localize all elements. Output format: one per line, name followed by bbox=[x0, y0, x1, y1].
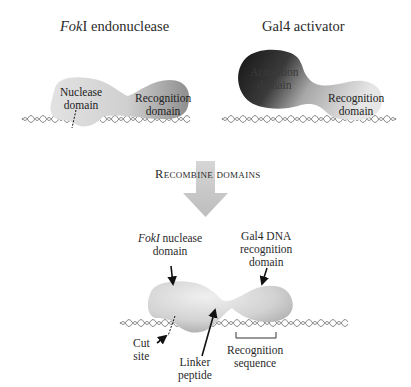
hybrid-nuclease-label-line2: domain bbox=[138, 245, 202, 258]
cut-site-label: Cut site bbox=[133, 337, 150, 363]
foki-title-italic: Fok bbox=[60, 18, 83, 34]
gal4-activation-label-line1: Activation bbox=[250, 66, 299, 79]
gal4-recognition-label-line2: domain bbox=[328, 105, 384, 118]
recognition-sequence-bracket bbox=[236, 332, 276, 338]
hybrid-nuclease-label-italic: FokI bbox=[138, 232, 160, 244]
recognition-sequence-label: Recognition sequence bbox=[227, 344, 283, 370]
hybrid-recognition-label-line3: domain bbox=[240, 256, 292, 269]
gal4-recognition-domain-label: Recognition domain bbox=[328, 92, 384, 118]
foki-title-rest: I endonuclease bbox=[83, 18, 170, 34]
hybrid-recognition-domain-label: Gal4 DNA recognition domain bbox=[240, 230, 292, 269]
hybrid-nuclease-label-rest: nuclease bbox=[160, 232, 202, 244]
cut-site-label-line1: Cut bbox=[133, 337, 150, 350]
recog-seq-label-line2: sequence bbox=[227, 357, 283, 370]
gal4-activation-domain-label: Activation domain bbox=[250, 66, 299, 92]
hybrid-dna-strand bbox=[120, 320, 348, 327]
hybrid-recognition-label-line1: Gal4 DNA bbox=[240, 230, 292, 243]
linker-peptide-label: Linker peptide bbox=[178, 356, 212, 382]
foki-recognition-domain-label: Recognition domain bbox=[135, 92, 191, 118]
gal4-title: Gal4 activator bbox=[262, 18, 345, 35]
linker-label-line1: Linker bbox=[178, 356, 212, 369]
cut-site-pointer bbox=[157, 336, 166, 343]
gal4-recognition-pointer bbox=[262, 268, 267, 284]
foki-recognition-label-line1: Recognition bbox=[135, 92, 191, 105]
hybrid-nuclease-domain-label: FokI nuclease domain bbox=[138, 232, 202, 258]
cut-site-label-line2: site bbox=[133, 350, 150, 363]
hybrid-recognition-label-line2: recognition bbox=[240, 243, 292, 256]
diagram-canvas bbox=[0, 0, 411, 387]
foki-nuclease-domain-label: Nuclease domain bbox=[60, 86, 102, 112]
linker-label-line2: peptide bbox=[178, 369, 212, 382]
recombine-domains-label: Recombine domains bbox=[155, 168, 261, 181]
gal4-activation-label-line2: domain bbox=[250, 79, 299, 92]
recog-seq-label-line1: Recognition bbox=[227, 344, 283, 357]
gal4-recognition-label-line1: Recognition bbox=[328, 92, 384, 105]
foki-nuclease-label-line1: Nuclease bbox=[60, 86, 102, 99]
foki-nuclease-label-line2: domain bbox=[60, 99, 102, 112]
foki-recognition-label-line2: domain bbox=[135, 105, 191, 118]
foki-nuclease-pointer bbox=[171, 266, 173, 284]
foki-title: FokI endonuclease bbox=[60, 18, 169, 35]
